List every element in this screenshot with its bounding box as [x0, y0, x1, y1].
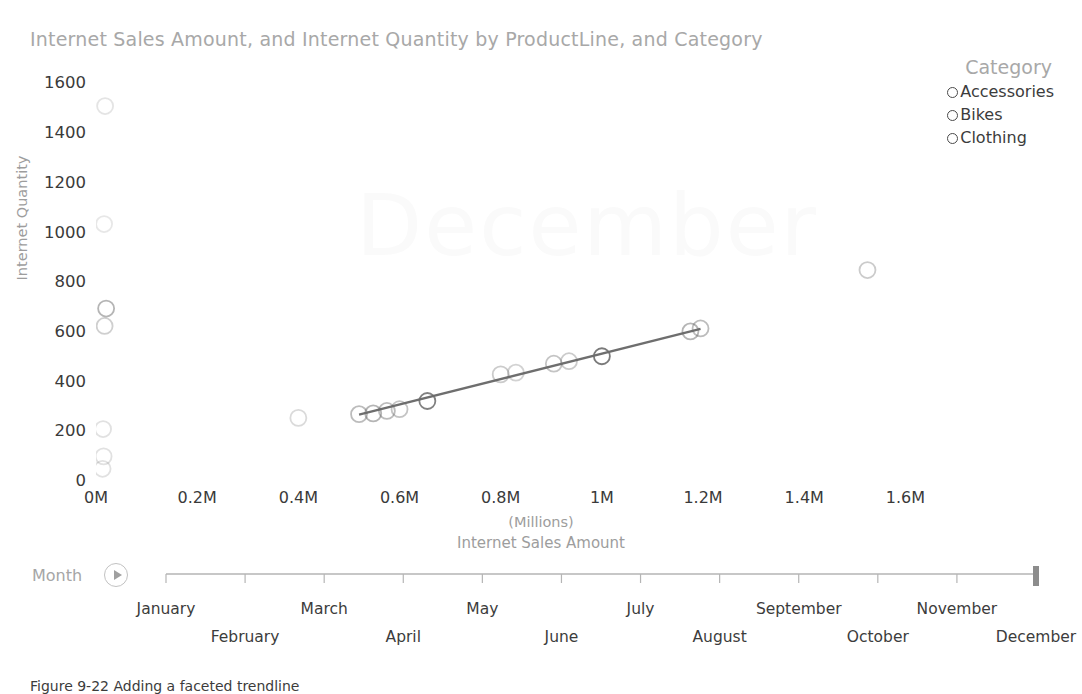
- x-axis-tick: 0.8M: [481, 488, 520, 507]
- x-axis-title: Internet Sales Amount: [0, 534, 1082, 552]
- legend: Category AccessoriesBikesClothing: [947, 56, 1054, 150]
- x-axis-tick: 0.6M: [380, 488, 419, 507]
- legend-item-accessories[interactable]: Accessories: [947, 81, 1054, 103]
- y-axis-tick: 0: [24, 471, 86, 490]
- data-point-marker[interactable]: [96, 216, 112, 232]
- legend-item-label: Bikes: [960, 104, 1002, 126]
- data-point-marker[interactable]: [693, 320, 709, 336]
- plot-area: December: [96, 70, 956, 480]
- data-point-marker[interactable]: [594, 348, 610, 364]
- legend-item-label: Accessories: [960, 81, 1054, 103]
- data-point-marker[interactable]: [96, 421, 111, 437]
- x-axis-tick: 0M: [84, 488, 108, 507]
- y-axis-tick: 1200: [24, 172, 86, 191]
- chart-title: Internet Sales Amount, and Internet Quan…: [30, 28, 763, 50]
- x-axis-tick: 1.2M: [683, 488, 722, 507]
- x-axis-tick: 0.4M: [279, 488, 318, 507]
- legend-item-list: AccessoriesBikesClothing: [947, 81, 1054, 149]
- x-axis-tick: 0.2M: [178, 488, 217, 507]
- data-point-marker[interactable]: [98, 301, 114, 317]
- y-axis-tick: 1600: [24, 73, 86, 92]
- month-label-may[interactable]: May: [466, 600, 498, 618]
- x-axis-tick: 1M: [590, 488, 614, 507]
- month-label-july[interactable]: July: [627, 600, 655, 618]
- legend-item-bikes[interactable]: Bikes: [947, 104, 1054, 126]
- data-point-marker[interactable]: [290, 410, 306, 426]
- month-label-october[interactable]: October: [847, 628, 909, 646]
- month-label-november[interactable]: November: [917, 600, 998, 618]
- month-label-april[interactable]: April: [386, 628, 421, 646]
- x-axis-subtitle: (Millions): [0, 514, 1082, 530]
- data-point-marker[interactable]: [97, 98, 113, 114]
- figure-caption: Figure 9-22 Adding a faceted trendline: [30, 678, 300, 694]
- y-axis-tick: 200: [24, 421, 86, 440]
- legend-item-clothing[interactable]: Clothing: [947, 127, 1054, 149]
- y-axis-tick: 400: [24, 371, 86, 390]
- play-triangle: [114, 570, 122, 580]
- y-axis-tick: 800: [24, 272, 86, 291]
- month-label-december[interactable]: December: [996, 628, 1076, 646]
- y-axis-tick: 600: [24, 321, 86, 340]
- slider-label: Month: [32, 566, 82, 585]
- x-axis-tick: 1.4M: [785, 488, 824, 507]
- data-point-marker[interactable]: [508, 365, 524, 381]
- y-axis-title: Internet Quantity: [14, 156, 30, 281]
- x-axis-tick: 1.6M: [886, 488, 925, 507]
- y-axis-tick: 1400: [24, 123, 86, 142]
- month-label-march[interactable]: March: [301, 600, 348, 618]
- plot-canvas: [96, 70, 956, 480]
- month-label-january[interactable]: January: [137, 600, 196, 618]
- month-label-june[interactable]: June: [545, 628, 579, 646]
- month-label-august[interactable]: August: [693, 628, 747, 646]
- month-slider-track[interactable]: [160, 560, 1050, 592]
- data-point-marker[interactable]: [859, 262, 875, 278]
- data-point-marker[interactable]: [419, 393, 435, 409]
- y-axis-tick: 1000: [24, 222, 86, 241]
- month-label-february[interactable]: February: [211, 628, 280, 646]
- legend-title: Category: [947, 56, 1054, 78]
- legend-item-label: Clothing: [960, 127, 1027, 149]
- slider-handle[interactable]: [1033, 566, 1039, 586]
- data-point-marker[interactable]: [97, 318, 113, 334]
- trendline: [359, 329, 700, 415]
- data-point-marker[interactable]: [96, 461, 111, 477]
- play-icon[interactable]: [104, 563, 128, 587]
- month-label-september[interactable]: September: [756, 600, 842, 618]
